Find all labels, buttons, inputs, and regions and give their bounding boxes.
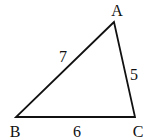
vertex-label-a: A [111, 2, 123, 19]
side-label-bc: 6 [73, 123, 81, 140]
side-label-ab: 7 [59, 48, 67, 65]
vertex-label-c: C [133, 123, 144, 140]
triangle-abc [16, 22, 135, 117]
side-label-ac: 5 [130, 66, 138, 83]
vertex-label-b: B [10, 123, 21, 140]
triangle-diagram: A B C 7 5 6 [0, 0, 146, 140]
